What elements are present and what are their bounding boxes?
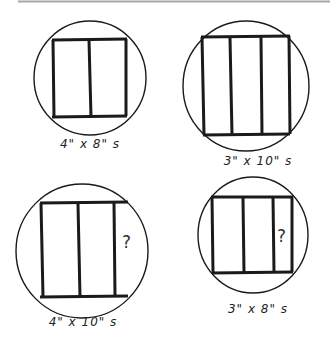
- diagram-3-label: 4" x 10" s: [49, 315, 118, 329]
- diagram-4-label: 3" x 8" s: [228, 302, 288, 316]
- diagram-1-label: 4" x 8" s: [60, 137, 120, 151]
- log-diagram-4: [198, 177, 308, 293]
- drawing-canvas: [0, 0, 330, 346]
- diagram-2-label: 3" x 10" s: [224, 154, 293, 168]
- log-diagram-2: [183, 21, 309, 151]
- diagram-4-question-mark: ?: [277, 226, 286, 246]
- diagram-3-question-mark: ?: [122, 232, 131, 252]
- log-diagram-1: [34, 21, 146, 135]
